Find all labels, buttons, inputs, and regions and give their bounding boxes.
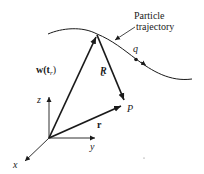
trajectory-label-pointer — [115, 27, 135, 40]
field-point-label: P — [126, 103, 133, 114]
x-axis — [25, 138, 49, 161]
position-vector-label: r — [97, 119, 102, 130]
y-axis-label: y — [89, 141, 95, 152]
trajectory-label-line2: trajectory — [136, 21, 174, 32]
position-vector-arrow — [49, 106, 121, 138]
w-vector-label-main: w(t — [36, 64, 51, 76]
charge-dot-icon — [134, 58, 138, 62]
x-axis-label: x — [12, 159, 18, 170]
trajectory-label-line1: Particle — [134, 10, 165, 21]
w-vector-label: w(tr) — [36, 64, 56, 77]
separation-vector-label: Ɽ — [100, 65, 107, 76]
retarded-position-diagram: q Particle trajectory w(tr) Ɽ r P z y x — [0, 0, 204, 174]
w-vector-label-close: ) — [53, 64, 56, 76]
speck — [144, 158, 145, 159]
charge-label: q — [133, 43, 138, 54]
z-axis-label: z — [36, 94, 41, 105]
w-vector-arrow — [49, 37, 96, 138]
